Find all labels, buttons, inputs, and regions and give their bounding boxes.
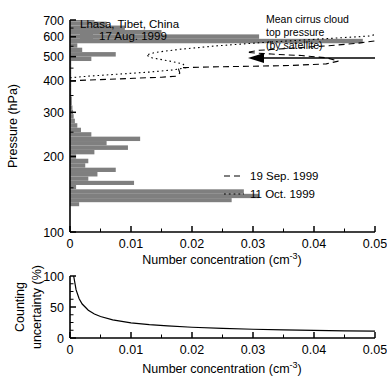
bar	[70, 168, 116, 172]
bar	[70, 137, 140, 141]
annotation-line-2: top pressure	[266, 26, 325, 38]
bar	[70, 141, 107, 145]
y-tick-label: 50	[50, 301, 64, 315]
x-tick-label: 0	[67, 343, 74, 357]
figure-svg: 100200300400500600700 00.010.020.030.040…	[0, 0, 387, 381]
x-tick-label: 0.02	[180, 343, 204, 357]
x-tick-label: 0.02	[180, 237, 204, 251]
x-tick-label: 0.05	[363, 237, 387, 251]
bar	[70, 132, 91, 136]
legend-label-17aug: 17 Aug. 1999	[99, 30, 167, 42]
x-tick-label: 0	[67, 237, 74, 251]
bar	[70, 189, 244, 194]
bar	[70, 159, 88, 164]
bar	[70, 43, 77, 47]
annotation-line-1: Mean cirrus cloud	[266, 13, 349, 25]
bar	[70, 163, 85, 167]
bar	[70, 198, 232, 202]
legend-swatch-bar	[80, 34, 93, 39]
x-tick-label: 0.04	[302, 237, 326, 251]
bottom-y-tick-labels: 050100	[43, 270, 64, 346]
bottom-y-axis-title-line1: Counting	[13, 282, 27, 332]
line-series-19sep	[70, 41, 375, 81]
top-x-ticks	[70, 226, 375, 232]
y-tick-label: 100	[43, 226, 64, 240]
bar	[70, 202, 79, 206]
x-tick-label: 0.05	[363, 343, 387, 357]
panel-location-title: Lhasa, Tibet, China	[80, 18, 180, 30]
y-tick-label: 500	[43, 50, 64, 64]
legend-label-11oct: 11 Oct. 1999	[250, 188, 315, 200]
bar	[70, 145, 128, 150]
top-y-axis-title: Pressure (hPa)	[6, 84, 20, 168]
top-profile-panel: 100200300400500600700 00.010.020.030.040…	[6, 13, 387, 267]
y-tick-label: 700	[43, 14, 64, 28]
legend-label-19sep: 19 Sep. 1999	[250, 170, 318, 182]
bar	[70, 150, 94, 154]
y-tick-label: 400	[43, 74, 64, 88]
top-x-axis-title: Number concentration (cm-3)	[142, 251, 301, 267]
bar	[70, 185, 76, 189]
x-tick-label: 0.03	[241, 237, 265, 251]
y-tick-label: 200	[43, 150, 64, 164]
bar	[70, 181, 134, 185]
bar	[70, 172, 97, 176]
x-tick-label: 0.01	[119, 237, 143, 251]
bar	[70, 194, 259, 198]
bar	[70, 48, 82, 52]
annotation-arrow	[248, 53, 375, 63]
x-tick-label: 0.04	[302, 343, 326, 357]
x-tick-label: 0.01	[119, 343, 143, 357]
bottom-x-tick-labels: 00.010.020.030.040.05	[67, 343, 387, 357]
bottom-y-axis-title-line2: uncertainty (%)	[30, 265, 44, 349]
y-tick-label: 0	[57, 332, 64, 346]
top-x-tick-labels: 00.010.020.030.040.05	[67, 237, 387, 251]
annotation-line-3: (by satellite)	[266, 39, 323, 51]
bottom-uncertainty-panel: 050100 00.010.020.030.040.05 Counting un…	[13, 265, 387, 376]
top-y-tick-labels: 100200300400500600700	[43, 14, 64, 240]
bar	[70, 128, 81, 132]
bar	[70, 176, 88, 180]
bottom-x-ticks	[70, 332, 375, 338]
figure-root: 100200300400500600700 00.010.020.030.040…	[0, 0, 387, 381]
bottom-x-axis-title: Number concentration (cm-3)	[142, 360, 301, 376]
bar	[70, 123, 77, 128]
y-tick-label: 300	[43, 106, 64, 120]
y-tick-label: 600	[43, 30, 64, 44]
bar	[70, 52, 116, 56]
line-series-uncertainty	[74, 276, 375, 331]
x-tick-label: 0.03	[241, 343, 265, 357]
y-tick-label: 100	[43, 270, 64, 284]
